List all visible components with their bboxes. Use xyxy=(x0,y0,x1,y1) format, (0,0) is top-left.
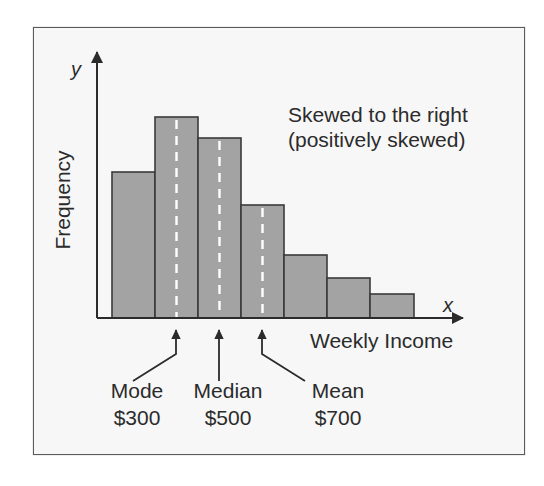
mean-label-value: $700 xyxy=(315,406,362,429)
x-axis-title: Weekly Income xyxy=(310,329,453,352)
skew-annotation-line-2: (positively skewed) xyxy=(288,128,465,151)
y-axis-title: Frequency xyxy=(51,150,74,250)
median-label-value: $500 xyxy=(205,406,252,429)
y-axis-variable-label: y xyxy=(69,58,82,80)
x-axis-variable-label: x xyxy=(442,294,454,316)
skew-annotation-line-1: Skewed to the right xyxy=(288,103,468,126)
bar-5 xyxy=(284,255,327,318)
mean-leader-line xyxy=(262,330,305,381)
mode-pointer xyxy=(133,330,176,381)
mode-leader-line xyxy=(133,330,176,381)
mean-label-name: Mean xyxy=(312,379,365,402)
median-label-name: Median xyxy=(194,379,263,402)
bar-1 xyxy=(112,172,155,318)
mode-label-name: Mode xyxy=(111,379,164,402)
histogram-plot: y x Frequency Weekly Income Skewed to th… xyxy=(0,0,544,486)
bar-7 xyxy=(370,294,414,318)
mean-pointer xyxy=(262,330,305,381)
figure-root: y x Frequency Weekly Income Skewed to th… xyxy=(0,0,544,486)
bar-6 xyxy=(327,278,370,318)
mode-label-value: $300 xyxy=(114,406,161,429)
